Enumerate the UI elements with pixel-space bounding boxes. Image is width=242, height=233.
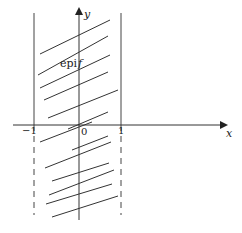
hatch-line [72, 136, 108, 150]
boundary-lines [34, 13, 121, 215]
epigraph-hatching [38, 20, 118, 217]
hatch-line [52, 163, 109, 181]
epigraph-label-prefix: epi [60, 57, 78, 70]
hatch-line [45, 142, 111, 168]
hatch-line [44, 72, 108, 100]
tick-label-one: 1 [118, 125, 124, 136]
y-axis-label: y [83, 8, 91, 21]
hatch-line [68, 112, 108, 129]
hatch-line [49, 170, 114, 195]
tick-label-zero: 0 [81, 126, 87, 137]
x-axis-label: x [226, 127, 233, 140]
epigraph-label: epif [60, 57, 84, 70]
hatch-line [40, 20, 110, 54]
axes [13, 9, 226, 220]
epigraph-diagram: y x −1 0 1 epif [0, 0, 242, 233]
tick-label-minus-one: −1 [22, 125, 37, 136]
